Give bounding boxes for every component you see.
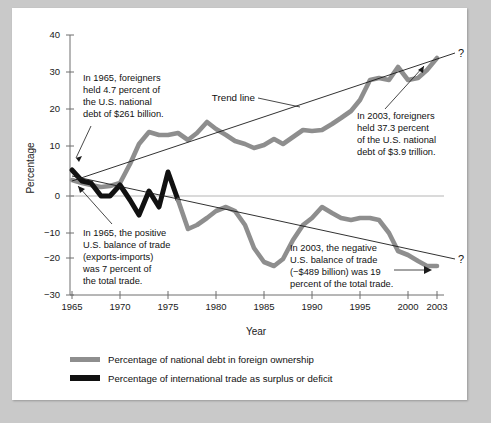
chart-figure: 40 30 20 10 0 −10 −20 −30 1965 1970 1975… [12, 8, 467, 400]
annotation-2003-debt-line-3: of the U.S. national [357, 135, 436, 145]
annotation-1965-trade-line-4: was 7 percent of [82, 264, 152, 274]
question-mark-upper: ? [458, 47, 464, 59]
x-tick-labels: 1965 1970 1975 1980 1985 1990 1995 2000 … [61, 301, 447, 312]
annotation-1965-debt-line-3: the U.S. national [83, 97, 152, 107]
y-tick-label-neg30: −30 [44, 289, 60, 300]
x-tick-label-1975: 1975 [157, 301, 178, 312]
annotation-2003-trade-line-1: In 2003, the negative [290, 243, 377, 253]
annotation-1965-debt-line-2: held 4.7 percent of [83, 85, 160, 95]
x-tick-label-1965: 1965 [61, 301, 82, 312]
chart-canvas: 40 30 20 10 0 −10 −20 −30 1965 1970 1975… [12, 8, 467, 400]
annotation-1965-debt: In 1965, foreigners held 4.7 percent of … [76, 73, 164, 162]
annotation-1965-trade-line-5: the total trade. [83, 276, 142, 286]
y-tick-label-40: 40 [49, 29, 60, 40]
y-tick-label-neg10: −10 [44, 227, 60, 238]
x-tick-label-1990: 1990 [301, 301, 322, 312]
legend: Percentage of national debt in foreign o… [70, 354, 333, 384]
question-mark-lower: ? [458, 253, 464, 265]
legend-label-trade-balance: Percentage of international trade as sur… [108, 373, 333, 384]
y-tick-label-10: 10 [49, 140, 60, 151]
legend-label-national-debt: Percentage of national debt in foreign o… [108, 354, 314, 365]
annotation-1965-trade-line-2: U.S. balance of trade [83, 240, 170, 250]
y-tick-label-20: 20 [49, 103, 60, 114]
legend-swatch-trade-balance [70, 375, 100, 381]
y-tick-label-neg20: −20 [44, 252, 60, 263]
x-tick-label-1970: 1970 [109, 301, 130, 312]
annotation-1965-debt-line-1: In 1965, foreigners [83, 73, 161, 83]
legend-swatch-national-debt [70, 357, 100, 362]
trend-line-leader [258, 98, 300, 107]
annotation-2003-debt-line-1: In 2003, foreigners [357, 111, 435, 121]
trend-line-label: Trend line [212, 92, 256, 103]
annotation-2003-trade-line-3: (−$489 billion) was 19 [290, 267, 381, 277]
x-axis-title: Year [246, 326, 267, 337]
annotation-1965-trade-arrowhead [78, 186, 85, 193]
y-tick-label-0: 0 [55, 190, 60, 201]
annotation-2003-debt-line-4: debt of $3.9 trillion. [357, 147, 436, 157]
x-tick-label-1995: 1995 [349, 301, 370, 312]
annotation-1965-trade-line-3: (exports-imports) [83, 252, 153, 262]
annotation-2003-trade: In 2003, the negative U.S. balance of tr… [290, 243, 432, 289]
x-tick-label-2000: 2000 [397, 301, 418, 312]
annotation-1965-debt-line-4: debt of $261 billion. [83, 109, 164, 119]
x-tick-label-2003: 2003 [426, 301, 447, 312]
y-tick-label-30: 30 [49, 66, 60, 77]
x-tick-label-1985: 1985 [253, 301, 274, 312]
annotation-2003-trade-line-4: percent of the total trade. [290, 279, 393, 289]
y-tick-labels: 40 30 20 10 0 −10 −20 −30 [44, 29, 60, 300]
annotation-1965-trade-line-1: In 1965, the positive [83, 228, 166, 238]
annotation-2003-debt-line-2: held 37.3 percent [357, 123, 429, 133]
annotation-1965-debt-leader [76, 126, 91, 158]
annotation-2003-trade-line-2: U.S. balance of trade [290, 255, 377, 265]
x-tick-label-1980: 1980 [205, 301, 226, 312]
y-axis-title: Percentage [25, 142, 36, 194]
